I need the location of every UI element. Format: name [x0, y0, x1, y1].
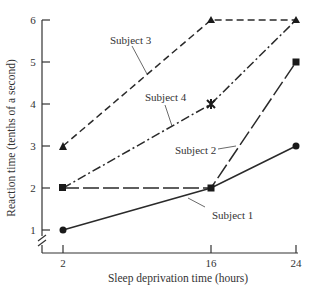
- leader-line-subject-4: [165, 105, 172, 126]
- square-marker-icon: [208, 185, 215, 192]
- label-subject-2: Subject 2: [175, 144, 216, 156]
- circle-marker-icon: [293, 143, 300, 150]
- y-tick: 2: [30, 182, 36, 194]
- series-labels: Subject 3 Subject 4 Subject 2 Subject 1: [110, 34, 253, 221]
- leader-line-subject-1: [188, 198, 205, 207]
- square-marker-icon: [293, 59, 300, 66]
- y-tick-labels: 6 5 4 3 2 1: [30, 14, 36, 236]
- x-tick-labels: 2 16 24: [60, 257, 302, 269]
- leader-line-subject-3: [132, 46, 147, 74]
- y-tick: 6: [30, 14, 36, 26]
- square-marker-icon: [59, 184, 66, 191]
- x-tick: 2: [60, 257, 66, 269]
- y-tick: 1: [30, 224, 36, 236]
- label-subject-3: Subject 3: [110, 34, 152, 46]
- series-subject-2: [63, 62, 296, 188]
- triangle-marker-icon: [207, 16, 215, 23]
- label-subject-4: Subject 4: [145, 91, 187, 103]
- markers: [59, 16, 300, 234]
- cross-marker-icon: [207, 99, 215, 109]
- y-tick: 5: [30, 56, 36, 68]
- series-lines: [63, 20, 296, 230]
- x-axis-title: Sleep deprivation time (hours): [108, 272, 248, 285]
- label-subject-1: Subject 1: [212, 209, 253, 221]
- x-tick: 24: [291, 257, 303, 269]
- axes: [38, 20, 298, 253]
- axis-break-icon: [38, 235, 46, 246]
- y-tick: 4: [30, 98, 36, 110]
- y-tick: 3: [30, 140, 36, 152]
- circle-marker-icon: [60, 227, 67, 234]
- series-subject-3: [63, 20, 296, 146]
- line-chart: 6 5 4 3 2 1 2 16 24 Sleep deprivation ti…: [0, 0, 314, 290]
- x-tick: 16: [206, 257, 218, 269]
- leader-line-subject-2: [218, 146, 236, 149]
- y-axis-title: Reaction time (tenths of a second): [5, 59, 18, 217]
